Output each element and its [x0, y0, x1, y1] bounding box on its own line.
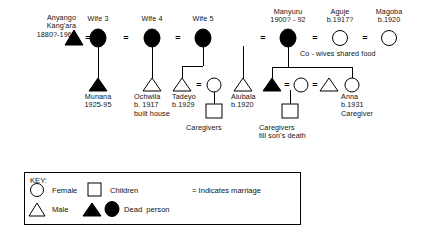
- symbol-wife5-female-dead: [195, 29, 211, 47]
- label-alubala: Alubala b.1920: [231, 93, 256, 110]
- marriage-symbol-wife3-wife4: =: [123, 34, 128, 43]
- marriage-symbol-son-wife: =: [284, 81, 289, 90]
- legend-label-female: Female: [52, 186, 77, 195]
- label-manyuru: Manyuru 1900? - 92: [270, 8, 305, 25]
- legend-label-male: Male: [52, 205, 68, 214]
- label-magoba: Magoba b.1920: [376, 8, 403, 25]
- legend-circle-icon: [31, 184, 44, 197]
- legend-label-marriage: = Indicates marriage: [192, 186, 261, 195]
- label-wife3: Wife 3: [88, 15, 109, 23]
- symbol-alubala-male: [234, 78, 252, 91]
- legend-filled-circle-icon: [105, 202, 119, 217]
- marriage-symbol-anyango-wife3: =: [85, 34, 90, 43]
- annotation-co-wives: Co - wives shared food: [300, 50, 376, 58]
- symbol-son-wife-female: [294, 78, 308, 92]
- symbol-husband-male: [320, 78, 338, 91]
- legend-label-dead: Dead person: [124, 205, 170, 214]
- legend-square-icon: [88, 183, 101, 196]
- symbol-ochwila-male: [143, 78, 161, 91]
- symbol-aguje-female: [333, 31, 348, 46]
- marriage-symbol-wife-husband: =: [312, 81, 317, 90]
- symbol-munana-male-dead: [89, 78, 107, 91]
- marriage-symbol-aguje-magoba: =: [362, 34, 367, 43]
- symbol-children-box-son: [282, 104, 298, 118]
- symbol-magoba-female: [382, 31, 397, 46]
- label-wife5: Wife 5: [193, 15, 214, 23]
- label-anyango: Anyango Kang'ara 1880?-1964: [14, 14, 76, 39]
- legend-title: KEY:: [30, 176, 47, 185]
- marriage-symbol-tadeyo-wife: =: [196, 81, 201, 90]
- label-aguje: Aguje b.1917?: [327, 8, 354, 25]
- label-anna: Anna b.1931 Caregiver: [341, 93, 373, 118]
- symbol-son-male-dead: [263, 78, 281, 91]
- symbol-anna-female: [345, 78, 359, 92]
- symbol-wife4-female-dead: [144, 29, 160, 47]
- legend-label-children: Children: [110, 186, 138, 195]
- symbol-children-box-tadeyo: [206, 104, 222, 118]
- label-ochwila: Ochwila b. 1917 built house: [134, 93, 170, 118]
- marriage-symbol-wife4-wife5: =: [175, 34, 180, 43]
- marriage-symbol-manyuru-aguje: =: [312, 34, 317, 43]
- symbol-manyuru-female-dead: [280, 29, 296, 47]
- legend-box: [24, 172, 300, 224]
- marriage-symbol-wife5-manyuru: =: [260, 34, 265, 43]
- label-tadeyo: Tadeyo b.1929: [172, 93, 196, 110]
- symbol-wife3-female-dead: [90, 29, 106, 47]
- caption-caregivers-tadeyo: Caregivers: [186, 124, 222, 132]
- kinship-diagram: = = = = = = = = = Anyango Kang'ara 1880?…: [0, 0, 440, 248]
- label-wife4: Wife 4: [142, 15, 163, 23]
- caption-caregivers-son: Caregivers till son's death: [259, 124, 306, 141]
- symbol-tadeyo-male: [173, 78, 191, 91]
- symbol-tadeyo-wife-female: [207, 78, 221, 92]
- label-munana: Munana 1925-95: [84, 93, 111, 110]
